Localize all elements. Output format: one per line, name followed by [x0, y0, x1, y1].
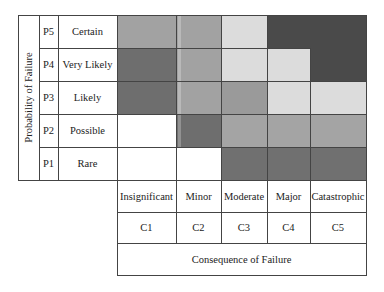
grid-line [39, 114, 367, 115]
grid-line [39, 48, 310, 49]
risk-cell-p2-c1 [117, 114, 176, 147]
row-code-p1: P1 [39, 147, 58, 180]
risk-cell-p3-c2 [176, 81, 221, 114]
grid-line [221, 15, 222, 244]
x-axis-title: Consequence of Failure [117, 243, 366, 275]
risk-cell-p2-c3 [221, 114, 267, 147]
col-label-catastrophic: Catastrophic [310, 180, 366, 212]
grid-line [267, 15, 268, 244]
grid-line [117, 15, 118, 276]
risk-cell-p5-c4 [267, 15, 310, 48]
grid-line [310, 48, 311, 244]
col-code-c5: C5 [310, 212, 366, 243]
grid-line [58, 15, 59, 181]
row-code-p3: P3 [39, 81, 58, 114]
row-label-rare: Rare [58, 147, 117, 180]
row-label-certain: Certain [58, 15, 117, 48]
risk-cell-p4-c2 [176, 48, 221, 81]
risk-cell-p1-c1 [117, 147, 176, 180]
risk-cell-p3-c3 [221, 81, 267, 114]
col-label-moderate: Moderate [221, 180, 267, 212]
row-label-possible: Possible [58, 114, 117, 147]
row-code-p4: P4 [39, 48, 58, 81]
col-code-c3: C3 [221, 212, 267, 243]
col-label-minor: Minor [176, 180, 221, 212]
risk-cell-p5-c3 [221, 15, 267, 48]
col-code-c1: C1 [117, 212, 176, 243]
row-label-likely: Likely [58, 81, 117, 114]
grid-line [39, 15, 40, 181]
risk-cell-p4-c5 [310, 48, 366, 81]
y-axis-title: Probability of Failure [18, 15, 39, 180]
risk-cell-p5-c5 [310, 15, 366, 48]
risk-cell-p4-c4 [267, 48, 310, 81]
row-code-p2: P2 [39, 114, 58, 147]
risk-cell-p1-c4 [267, 147, 310, 180]
grid-line [39, 147, 367, 148]
grid-line [176, 15, 177, 244]
grid-line [39, 81, 367, 82]
risk-cell-p3-c5 [310, 81, 366, 114]
risk-cell-p4-c3 [221, 48, 267, 81]
row-code-p5: P5 [39, 15, 58, 48]
risk-cell-p5-c2 [176, 15, 221, 48]
risk-cell-p1-c5 [310, 147, 366, 180]
grid-line [117, 212, 367, 213]
risk-cell-p5-c1 [117, 15, 176, 48]
risk-cell-p2-c4 [267, 114, 310, 147]
grid-line [18, 15, 367, 16]
grid-line [18, 15, 19, 181]
col-label-major: Major [267, 180, 310, 212]
col-label-insignificant: Insignificant [117, 180, 176, 212]
risk-cell-p3-c1 [117, 81, 176, 114]
risk-cell-p2-c5 [310, 114, 366, 147]
risk-cell-p2-c2 [176, 114, 221, 147]
risk-cell-p3-c4 [267, 81, 310, 114]
grid-line [117, 243, 367, 244]
grid-line [366, 15, 367, 276]
col-code-c4: C4 [267, 212, 310, 243]
risk-cell-p4-c1 [117, 48, 176, 81]
row-label-very-likely: Very Likely [58, 48, 117, 81]
risk-cell-p1-c2 [176, 147, 221, 180]
col-code-c2: C2 [176, 212, 221, 243]
grid-line [18, 180, 367, 181]
grid-line [117, 275, 367, 276]
risk-cell-p1-c3 [221, 147, 267, 180]
